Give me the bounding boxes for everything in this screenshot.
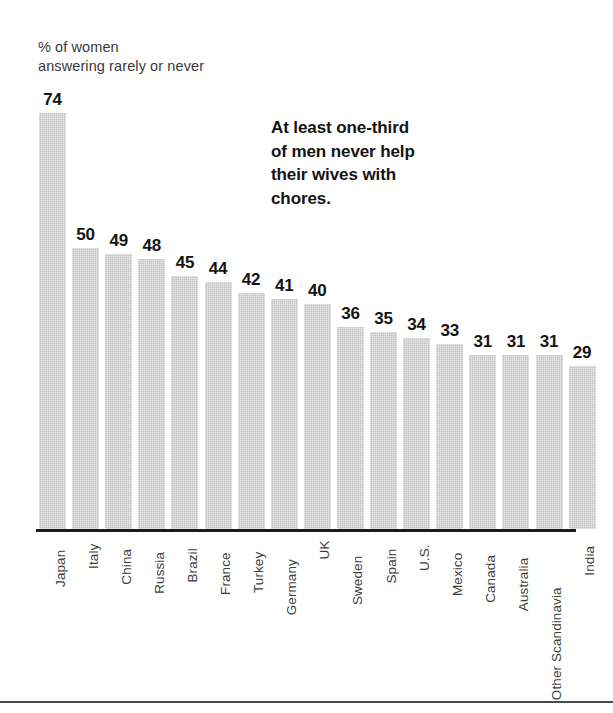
- bar-group: 36Sweden: [337, 327, 364, 529]
- plot-area: 74Japan50Italy49China48Russia45Brazil44F…: [0, 0, 613, 713]
- bar-group: 34U.S.: [403, 338, 430, 529]
- bar[interactable]: [271, 299, 298, 529]
- bar[interactable]: [436, 344, 463, 530]
- bar-group: 31Australia: [502, 355, 529, 529]
- bar-category-label-text: China: [119, 549, 134, 585]
- bar-category-label: Other Scandinavia: [549, 538, 564, 651]
- bar-category-label-text: U.S.: [417, 544, 432, 571]
- bar-group: 35Spain: [370, 332, 397, 529]
- bar-category-label: Australia: [516, 538, 531, 591]
- bar-category-label: China: [119, 538, 134, 574]
- bar[interactable]: [502, 355, 529, 529]
- bar-value-label: 40: [287, 281, 347, 301]
- bar-group: 41Germany: [271, 299, 298, 529]
- bar-category-label-text: Mexico: [450, 553, 465, 596]
- bar-category-label-text: Sweden: [350, 556, 365, 605]
- bar-category-label: Brazil: [185, 538, 200, 572]
- bar[interactable]: [569, 366, 596, 529]
- x-axis-line: [36, 529, 576, 532]
- bar[interactable]: [337, 327, 364, 529]
- bar[interactable]: [304, 304, 331, 529]
- bar-group: 74Japan: [39, 113, 66, 529]
- bar-category-label-text: India: [582, 546, 597, 576]
- bar[interactable]: [370, 332, 397, 529]
- bar-category-label-text: Spain: [384, 549, 399, 584]
- bar[interactable]: [536, 355, 563, 529]
- bar-category-label-text: Italy: [86, 544, 101, 569]
- bar-category-label-text: UK: [317, 540, 332, 559]
- bar-category-label: Sweden: [350, 538, 365, 587]
- bar-category-label-text: Japan: [53, 550, 68, 587]
- bar-category-label-text: Turkey: [251, 552, 266, 593]
- bar[interactable]: [39, 113, 66, 529]
- bar-group: 42Turkey: [238, 293, 265, 529]
- bar-category-label: France: [218, 538, 233, 581]
- bar-category-label: Russia: [152, 538, 167, 580]
- bar[interactable]: [171, 276, 198, 529]
- bar[interactable]: [469, 355, 496, 529]
- bar-group: 33Mexico: [436, 344, 463, 530]
- bar-group: 40UK: [304, 304, 331, 529]
- bar-group: 29India: [569, 366, 596, 529]
- bar-group: 50Italy: [72, 248, 99, 529]
- bar-group: 49China: [105, 254, 132, 529]
- bar-category-label: India: [582, 538, 597, 568]
- bar-category-label-text: Brazil: [185, 548, 200, 582]
- bar-category-label-text: Australia: [516, 558, 531, 611]
- bar-category-label: Italy: [86, 538, 101, 563]
- bar-group: 31Canada: [469, 355, 496, 529]
- bar-value-label: 74: [23, 90, 83, 110]
- bar-category-label: Canada: [483, 538, 498, 586]
- bar-category-label-text: Canada: [483, 555, 498, 603]
- bar-category-label: Spain: [384, 538, 399, 573]
- bar-category-label-text: Russia: [152, 552, 167, 594]
- bar[interactable]: [403, 338, 430, 529]
- bar[interactable]: [105, 254, 132, 529]
- bar-value-label: 29: [552, 343, 612, 363]
- bar[interactable]: [205, 282, 232, 529]
- bar-category-label-text: France: [218, 552, 233, 595]
- bar-group: 44France: [205, 282, 232, 529]
- bar[interactable]: [238, 293, 265, 529]
- bar-group: 31Other Scandinavia: [536, 355, 563, 529]
- chart-page: % of women answering rarely or never At …: [0, 0, 613, 713]
- bar[interactable]: [138, 259, 165, 529]
- bar-category-label: Turkey: [251, 538, 266, 579]
- bar-category-label: Mexico: [450, 538, 465, 581]
- footer-rule: [0, 701, 613, 703]
- bar-group: 48Russia: [138, 259, 165, 529]
- bar-category-label-text: Other Scandinavia: [549, 587, 564, 700]
- bar-group: 45Brazil: [171, 276, 198, 529]
- bar-category-label-text: Germany: [284, 559, 299, 615]
- bar-category-label: Germany: [284, 538, 299, 594]
- bar-category-label: U.S.: [417, 538, 432, 565]
- bar[interactable]: [72, 248, 99, 529]
- bar-category-label: UK: [317, 538, 332, 557]
- bar-category-label: Japan: [53, 538, 68, 575]
